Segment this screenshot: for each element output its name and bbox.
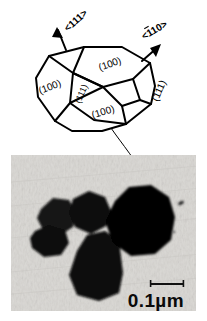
scale-bar-label: 0.1µm: [128, 290, 184, 311]
facet-label-100-left: (100): [37, 77, 63, 96]
facet-label-100-top: (100): [97, 55, 123, 73]
direction-arrow-group: <111> <110>: [52, 7, 169, 61]
speck-lower-right: [173, 231, 175, 233]
figure-root: (100) (100) (111) (100) (111) <111>: [0, 0, 207, 321]
leader-line-to-particle: [111, 128, 150, 158]
direction-1bar10-arrow-icon: [142, 44, 161, 61]
facet-label-100-bottom: (100): [90, 103, 116, 120]
tem-micrograph: 0.1µm: [11, 155, 196, 311]
index-10: 10>: [149, 18, 169, 36]
direction-111-label: <111>: [62, 7, 90, 34]
direction-111-arrow-icon: [52, 27, 66, 50]
crystal-habit-diagram: (100) (100) (111) (100) (111) <111>: [0, 0, 207, 158]
facet-label-111-right: (111): [149, 78, 168, 102]
direction-1bar10-label: <110>: [139, 18, 169, 42]
